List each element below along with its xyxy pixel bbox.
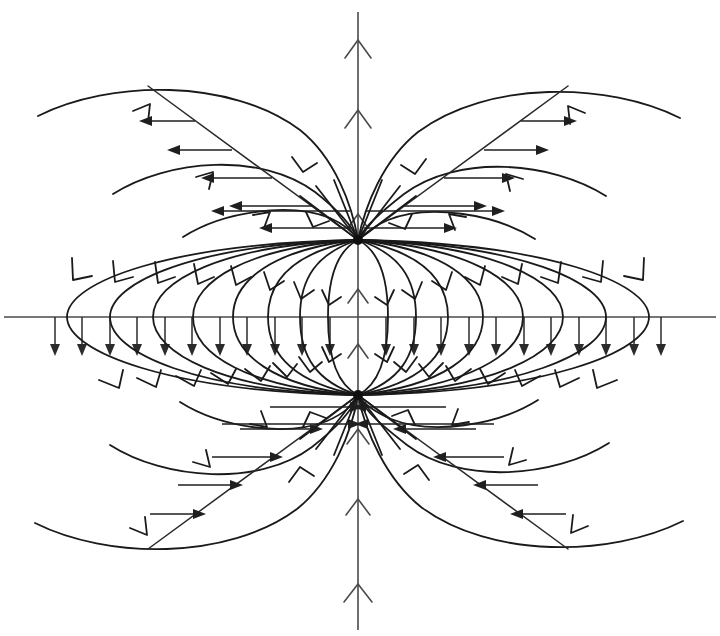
outer-arc (358, 92, 680, 240)
transverse-arrows-upper-right (404, 116, 577, 211)
dipole-field-svg (0, 0, 720, 636)
outer-arc (358, 395, 538, 427)
h-arrow (404, 201, 487, 211)
tick-arrow (50, 317, 60, 356)
tick-arrow (215, 317, 225, 356)
tick-arrow (160, 317, 170, 356)
h-arrow (510, 509, 566, 519)
h-arrow (150, 509, 206, 519)
field-diagram-canvas (0, 0, 720, 636)
tick-arrow (546, 317, 556, 356)
h-arrow (139, 116, 195, 126)
h-arrow (211, 206, 350, 216)
upper-node-dot (353, 235, 363, 245)
h-arrow (178, 480, 243, 490)
outer-arc (38, 90, 358, 240)
h-arrow (167, 145, 232, 155)
h-arrow (433, 452, 504, 462)
h-arrow (444, 173, 515, 183)
tick-arrow (242, 317, 252, 356)
h-arrow (473, 480, 538, 490)
lower-node-dot (353, 390, 363, 400)
h-arrow (240, 424, 323, 434)
h-arrow (201, 173, 272, 183)
h-arrow (212, 452, 283, 462)
tick-arrow (519, 317, 529, 356)
transverse-arrows-upper-left (139, 116, 312, 211)
tick-arrow (187, 317, 197, 356)
tick-arrow (656, 317, 666, 356)
h-arrow (484, 145, 549, 155)
tick-arrow (464, 317, 474, 356)
h-arrow (355, 419, 494, 429)
outer-arcs-lower (35, 395, 683, 549)
tick-arrow (491, 317, 501, 356)
